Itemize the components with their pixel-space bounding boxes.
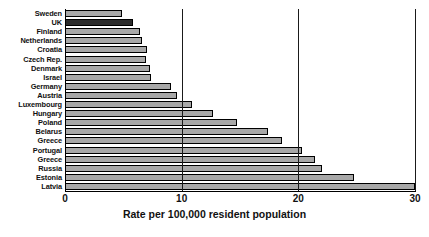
bar-row xyxy=(65,146,415,155)
x-tick-20: 20 xyxy=(293,193,304,204)
bar-row xyxy=(65,9,415,18)
gridline-30 xyxy=(415,9,416,191)
bar-chart: SwedenUKFinlandNetherlandsCroatiaCzech R… xyxy=(0,0,429,237)
x-tick-0: 0 xyxy=(62,193,68,204)
bar-greece[interactable] xyxy=(65,156,315,163)
bar-row xyxy=(65,45,415,54)
category-label: Sweden xyxy=(0,9,62,18)
category-label: Finland xyxy=(0,27,62,36)
bar-denmark[interactable] xyxy=(65,65,150,72)
bar-row xyxy=(65,173,415,182)
bar-row xyxy=(65,82,415,91)
bar-latvia[interactable] xyxy=(65,183,415,190)
category-label: Czech Rep. xyxy=(0,55,62,64)
plot-area xyxy=(65,9,415,191)
bar-row xyxy=(65,27,415,36)
category-label: Netherlands xyxy=(0,36,62,45)
category-label: UK xyxy=(0,18,62,27)
category-label: Luxembourg xyxy=(0,100,62,109)
category-label: Poland xyxy=(0,118,62,127)
bar-portugal[interactable] xyxy=(65,147,302,154)
bar-row xyxy=(65,164,415,173)
category-axis-labels: SwedenUKFinlandNetherlandsCroatiaCzech R… xyxy=(0,9,62,191)
bar-row xyxy=(65,182,415,191)
bar-greece[interactable] xyxy=(65,137,282,144)
bar-row xyxy=(65,36,415,45)
bar-sweden[interactable] xyxy=(65,10,122,17)
category-label: Portugal xyxy=(0,146,62,155)
category-label: Estonia xyxy=(0,173,62,182)
bar-row xyxy=(65,18,415,27)
category-label: Russia xyxy=(0,164,62,173)
category-label: Croatia xyxy=(0,45,62,54)
bar-poland[interactable] xyxy=(65,119,237,126)
bar-hungary[interactable] xyxy=(65,110,213,117)
x-axis-line xyxy=(65,191,416,192)
bar-row xyxy=(65,118,415,127)
x-tick-10: 10 xyxy=(176,193,187,204)
bar-russia[interactable] xyxy=(65,165,322,172)
bar-row xyxy=(65,91,415,100)
bar-uk[interactable] xyxy=(65,19,133,26)
bar-israel[interactable] xyxy=(65,74,151,81)
x-axis-title: Rate per 100,000 resident population xyxy=(0,208,429,220)
category-label: Germany xyxy=(0,82,62,91)
category-label: Israel xyxy=(0,73,62,82)
bar-row xyxy=(65,55,415,64)
gridline-20 xyxy=(298,9,299,191)
bar-row xyxy=(65,109,415,118)
bar-netherlands[interactable] xyxy=(65,37,142,44)
category-label: Denmark xyxy=(0,64,62,73)
bar-belarus[interactable] xyxy=(65,128,268,135)
gridline-10 xyxy=(182,9,183,191)
category-label: Austria xyxy=(0,91,62,100)
bar-luxembourg[interactable] xyxy=(65,101,192,108)
bar-croatia[interactable] xyxy=(65,46,147,53)
bar-finland[interactable] xyxy=(65,28,140,35)
bar-row xyxy=(65,100,415,109)
bar-austria[interactable] xyxy=(65,92,177,99)
category-label: Greece xyxy=(0,136,62,145)
bar-estonia[interactable] xyxy=(65,174,354,181)
bar-row xyxy=(65,64,415,73)
category-label: Belarus xyxy=(0,127,62,136)
bar-row xyxy=(65,136,415,145)
x-tick-30: 30 xyxy=(409,193,420,204)
category-label: Hungary xyxy=(0,109,62,118)
category-label: Greece xyxy=(0,155,62,164)
bar-row xyxy=(65,127,415,136)
bar-czech-rep[interactable] xyxy=(65,56,146,63)
bar-series xyxy=(65,9,415,191)
bar-germany[interactable] xyxy=(65,83,171,90)
category-label: Latvia xyxy=(0,182,62,191)
bar-row xyxy=(65,73,415,82)
bar-row xyxy=(65,155,415,164)
